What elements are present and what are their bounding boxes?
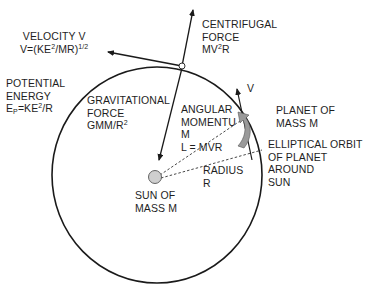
sun-label: SUN OF MASS M (135, 189, 177, 214)
centrifugal-force-arrow (182, 10, 193, 66)
velocity-formula: V=(KE2/MR)1/2 (20, 43, 88, 56)
tangent-velocity-label: V (247, 82, 254, 95)
planet-label: PLANET OF MASS M (276, 104, 335, 129)
radius-label: RADIUS R (203, 164, 243, 189)
sun-icon (149, 171, 162, 184)
potential-energy-formula: EP=KE2/R (6, 102, 65, 115)
planet-icon (179, 63, 185, 69)
centrifugal-force-label: CENTRIFUGAL FORCE MV2R (202, 18, 277, 56)
gravitational-formula: GMM/R2 (87, 119, 170, 132)
angular-momentum-label: ANGULAR MOMENTU M L = MVR (181, 103, 236, 153)
velocity-label-title: VELOCITY V (20, 30, 88, 43)
potential-energy-label: POTENTIAL ENERGY EP=KE2/R (6, 77, 65, 115)
centrifugal-formula: MV2R (202, 43, 277, 56)
elliptical-orbit-label: ELLIPTICAL ORBIT OF PLANET AROUND SUN (268, 138, 363, 188)
velocity-label: VELOCITY V V=(KE2/MR)1/2 (20, 30, 88, 55)
gravitational-force-label: GRAVITATIONAL FORCE GMM/R2 (87, 94, 170, 132)
velocity-arrow (108, 52, 182, 66)
